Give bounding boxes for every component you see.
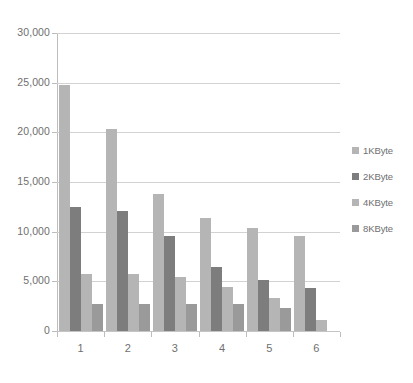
legend-item-4kbyte[interactable]: 4KByte	[352, 189, 413, 215]
x-axis-tick	[199, 332, 200, 337]
y-axis-tick-label: 30,000	[2, 27, 50, 38]
legend-swatch-icon	[352, 173, 359, 180]
bar	[294, 236, 305, 331]
legend-swatch-icon	[352, 225, 359, 232]
bar	[128, 274, 139, 331]
bar	[269, 298, 280, 331]
bar	[92, 304, 103, 331]
legend-label: 8KByte	[363, 223, 393, 234]
bar	[164, 236, 175, 331]
x-axis-tick	[340, 332, 341, 337]
x-axis-tick	[246, 332, 247, 337]
bar	[139, 304, 150, 331]
bar	[175, 277, 186, 331]
y-axis-tick	[52, 83, 57, 84]
bar	[247, 228, 258, 331]
y-axis-tick-label: 10,000	[2, 226, 50, 237]
bar	[280, 308, 291, 331]
bar-group	[199, 33, 246, 331]
y-axis-tick-labels: 05,00010,00015,00020,00025,00030,000	[0, 0, 50, 383]
y-axis-tick	[52, 33, 57, 34]
legend-swatch-icon	[352, 199, 359, 206]
bar	[186, 304, 197, 331]
legend-item-8kbyte[interactable]: 8KByte	[352, 215, 413, 241]
x-axis-tick	[293, 332, 294, 337]
bar	[200, 218, 211, 331]
bar	[258, 280, 269, 331]
bar	[81, 274, 92, 331]
y-axis-tick-label: 5,000	[2, 275, 50, 286]
y-axis-tick-label: 20,000	[2, 126, 50, 137]
x-axis-tick	[151, 332, 152, 337]
x-axis-tick-label: 2	[108, 343, 148, 354]
bar-chart: 05,00010,00015,00020,00025,00030,000 123…	[0, 0, 413, 383]
x-axis-tick	[104, 332, 105, 337]
x-axis-tick-label: 1	[61, 343, 101, 354]
y-axis-tick-label: 15,000	[2, 176, 50, 187]
bar	[117, 211, 128, 331]
bar	[211, 267, 222, 331]
bar	[222, 287, 233, 331]
y-axis-tick	[52, 182, 57, 183]
x-axis-tick-label: 5	[249, 343, 289, 354]
y-axis-tick-label: 25,000	[2, 77, 50, 88]
legend-item-2kbyte[interactable]: 2KByte	[352, 163, 413, 189]
x-axis-tick-label: 3	[155, 343, 195, 354]
y-axis-tick-label: 0	[2, 325, 50, 336]
x-axis-tick-label: 6	[296, 343, 336, 354]
bar-group	[246, 33, 293, 331]
bar	[316, 320, 327, 331]
x-axis-tick-label: 4	[202, 343, 242, 354]
bar	[305, 288, 316, 331]
plot-area	[57, 33, 340, 331]
bar	[153, 194, 164, 331]
legend-label: 1KByte	[363, 145, 393, 156]
x-axis-tick	[57, 332, 58, 337]
legend-swatch-icon	[352, 147, 359, 154]
bar-group	[104, 33, 151, 331]
legend-label: 4KByte	[363, 197, 393, 208]
bar-group	[293, 33, 340, 331]
chart-legend: 1KByte2KByte4KByte8KByte	[352, 137, 413, 241]
y-axis-tick	[52, 132, 57, 133]
legend-item-1kbyte[interactable]: 1KByte	[352, 137, 413, 163]
bar-group	[151, 33, 198, 331]
x-axis-tick-labels: 123456	[57, 343, 340, 363]
y-axis-tick	[52, 281, 57, 282]
bar-group	[57, 33, 104, 331]
y-axis-tick	[52, 232, 57, 233]
bar	[233, 304, 244, 331]
bar	[70, 207, 81, 331]
legend-label: 2KByte	[363, 171, 393, 182]
bar	[106, 129, 117, 331]
bar	[59, 85, 70, 331]
